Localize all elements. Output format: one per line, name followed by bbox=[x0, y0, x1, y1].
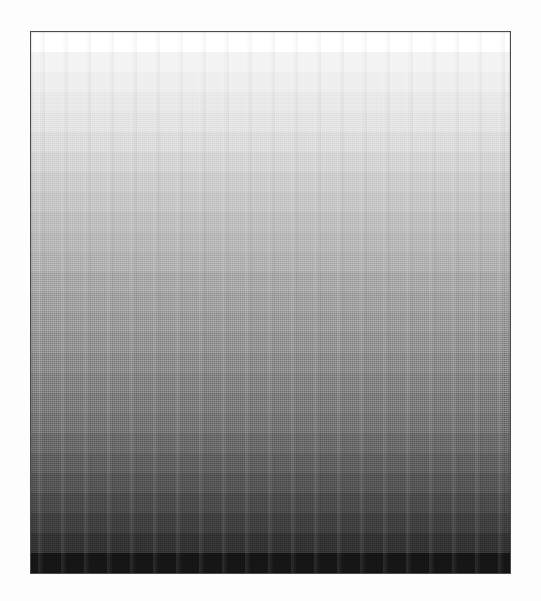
wedge-band bbox=[31, 433, 510, 453]
wedge-band bbox=[31, 32, 510, 52]
wedge-band bbox=[31, 533, 510, 553]
wedge-band bbox=[31, 52, 510, 72]
wedge-band bbox=[31, 232, 510, 252]
wedge-band bbox=[31, 72, 510, 92]
wedge-band bbox=[31, 192, 510, 212]
wedge-band bbox=[31, 212, 510, 232]
grayscale-step-wedge bbox=[31, 32, 510, 573]
wedge-band bbox=[31, 172, 510, 192]
wedge-band bbox=[31, 453, 510, 473]
wedge-band bbox=[31, 292, 510, 312]
wedge-band bbox=[31, 513, 510, 533]
wedge-band bbox=[31, 272, 510, 292]
wedge-band bbox=[31, 493, 510, 513]
wedge-band bbox=[31, 373, 510, 393]
wedge-band bbox=[31, 473, 510, 493]
wedge-band bbox=[31, 152, 510, 172]
grayscale-wedge-frame bbox=[30, 31, 511, 574]
wedge-band bbox=[31, 312, 510, 332]
scanned-page bbox=[0, 0, 541, 601]
wedge-band bbox=[31, 132, 510, 152]
wedge-band bbox=[31, 112, 510, 132]
wedge-band bbox=[31, 332, 510, 352]
wedge-band bbox=[31, 553, 510, 573]
wedge-band bbox=[31, 92, 510, 112]
wedge-band bbox=[31, 353, 510, 373]
wedge-band bbox=[31, 252, 510, 272]
wedge-band bbox=[31, 413, 510, 433]
wedge-band bbox=[31, 393, 510, 413]
